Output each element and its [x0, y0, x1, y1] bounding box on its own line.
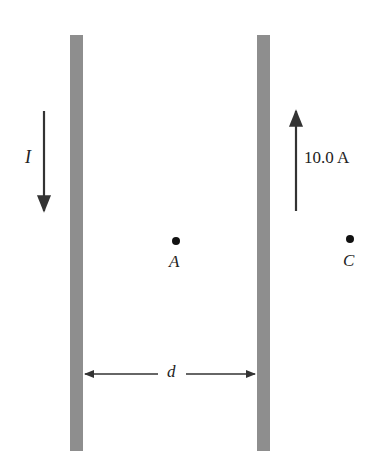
point-a-label: A [169, 252, 179, 272]
current-label-10a: 10.0 A [304, 148, 349, 168]
point-a-dot [172, 237, 180, 245]
left-wire [70, 35, 83, 451]
diagram-canvas [0, 0, 385, 468]
right-wire [257, 35, 270, 451]
point-c-label: C [343, 251, 354, 271]
current-label-i: I [25, 147, 31, 168]
point-c-dot [346, 235, 354, 243]
separation-label-d: d [167, 362, 176, 382]
